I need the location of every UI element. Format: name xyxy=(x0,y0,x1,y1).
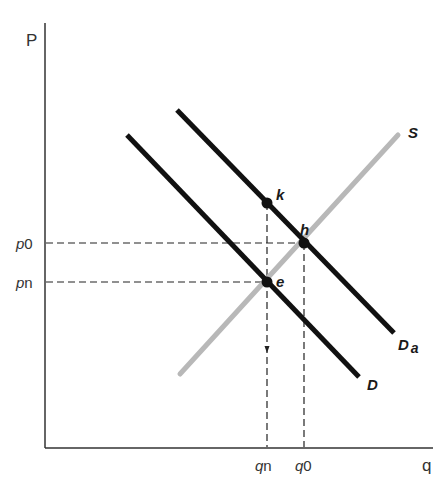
quantity-label-qn-suffix: n xyxy=(263,457,271,474)
quantity-label-q0-suffix: 0 xyxy=(303,457,311,474)
shifted-demand-curve-label: Da xyxy=(398,337,419,352)
y-axis-label: P xyxy=(26,32,37,49)
price-label-p0-suffix: 0 xyxy=(24,235,32,252)
demand-curve-D xyxy=(127,135,359,377)
shifted-demand-curve-label-sub: a xyxy=(411,340,419,356)
point-h xyxy=(299,238,310,249)
point-e xyxy=(262,277,273,288)
point-k xyxy=(262,198,273,209)
quantity-label-qn: qn xyxy=(255,458,272,473)
quantity-label-q0: q0 xyxy=(295,458,312,473)
supply-curve-S xyxy=(180,135,398,374)
demand-curve-label: D xyxy=(367,377,378,392)
point-k-label: k xyxy=(276,187,284,202)
supply-curve-label: S xyxy=(408,125,418,140)
price-label-pn-suffix: n xyxy=(24,274,32,291)
price-label-pn: pn xyxy=(16,275,33,290)
price-label-p0: p0 xyxy=(16,236,33,251)
x-axis-label: q xyxy=(422,457,431,474)
down-arrow-icon xyxy=(265,346,270,353)
supply-demand-diagram xyxy=(0,0,442,478)
point-h-label: h xyxy=(300,222,309,237)
shifted-demand-curve-label-main: D xyxy=(398,336,409,353)
point-e-label: e xyxy=(276,274,284,289)
